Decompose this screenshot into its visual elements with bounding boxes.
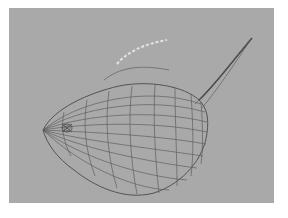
mesh-cap-detail [62, 124, 72, 132]
selected-curve[interactable] [117, 40, 167, 64]
mesh-longitudes [43, 96, 207, 190]
upper-edge-curve [104, 67, 169, 80]
mesh-silhouette [43, 84, 208, 196]
wireframe-canvas[interactable] [9, 8, 274, 203]
mesh-stem [195, 38, 252, 108]
3d-viewport[interactable] [9, 8, 274, 203]
